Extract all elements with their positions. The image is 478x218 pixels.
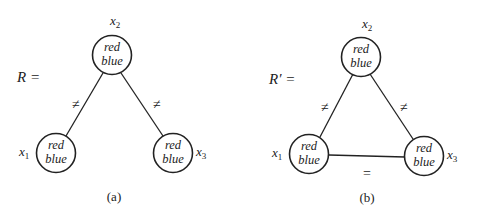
domain-value-red: red <box>353 42 370 56</box>
caption-a: (a) <box>107 189 121 204</box>
domain-value-blue: blue <box>45 152 67 166</box>
node-x2: red blue x2 <box>342 16 381 77</box>
node-x3: red blue x3 <box>154 134 207 173</box>
edge-label-x1-x3: = <box>363 166 371 181</box>
domain-value-red: red <box>416 141 433 155</box>
node-x2: red blue x2 <box>93 13 132 75</box>
caption-b: (b) <box>359 190 374 205</box>
relation-label-b: R′ = <box>268 71 295 87</box>
node-x3: red blue x3 <box>405 137 458 176</box>
edge-x1-x3 <box>329 155 405 157</box>
node-label-x2: x2 <box>361 16 372 33</box>
node-label-x1: x1 <box>18 144 29 161</box>
domain-value-red: red <box>301 139 318 153</box>
domain-value-red: red <box>165 138 182 152</box>
relation-label-a: R = <box>16 69 40 85</box>
domain-value-blue: blue <box>101 54 123 68</box>
domain-value-blue: blue <box>298 153 320 167</box>
domain-value-blue: blue <box>162 152 184 166</box>
node-label-x1: x1 <box>271 145 282 162</box>
diagram-a: R = ≠ ≠ red blue x2 red blue x1 red blue… <box>16 13 207 204</box>
domain-value-red: red <box>104 40 121 54</box>
diagram-b: R′ = ≠ ≠ = red blue x2 red blue x1 red b… <box>268 16 458 205</box>
domain-value-blue: blue <box>350 56 372 70</box>
node-label-x3: x3 <box>195 144 207 161</box>
node-label-x3: x3 <box>446 147 458 164</box>
node-x1: red blue x1 <box>271 135 329 174</box>
edge-label-x2-x3: ≠ <box>400 100 408 115</box>
constraint-graphs-figure: R = ≠ ≠ red blue x2 red blue x1 red blue… <box>0 0 478 218</box>
edge-label-x2-x1: ≠ <box>321 100 329 115</box>
edge-label-x2-x1: ≠ <box>72 97 80 112</box>
domain-value-red: red <box>48 138 65 152</box>
domain-value-blue: blue <box>413 155 435 169</box>
node-label-x2: x2 <box>109 13 120 30</box>
node-x1: red blue x1 <box>18 134 76 173</box>
edge-label-x2-x3: ≠ <box>153 97 161 112</box>
